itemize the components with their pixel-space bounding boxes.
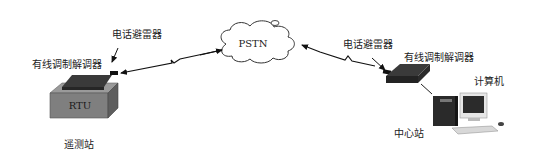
remote-station-label: 遥测站 — [64, 138, 94, 150]
computer-icon — [433, 93, 504, 134]
right-arrester-pointer — [372, 58, 385, 70]
left-arrester — [110, 71, 118, 75]
right-arrester-label: 电话避雷器 — [343, 38, 393, 50]
phone-icon — [271, 21, 279, 26]
left-modem-label: 有线调制解调器 — [32, 58, 102, 70]
center-station-label: 中心站 — [394, 127, 424, 139]
computer-label: 计算机 — [474, 75, 504, 87]
left-arrester-label: 电话避雷器 — [112, 28, 162, 40]
right-modem — [386, 64, 430, 83]
left-arrester-pointer — [112, 48, 118, 62]
pstn-label: PSTN — [239, 38, 268, 49]
modem-computer-cable — [421, 84, 432, 94]
pstn-cloud: PSTN — [221, 21, 294, 64]
rtu-label: RTU — [69, 100, 91, 111]
network-diagram: PSTN RTU 电话避雷器 有线调制解调器 遥测站 — [0, 0, 534, 161]
right-modem-label: 有线调制解调器 — [404, 51, 474, 63]
